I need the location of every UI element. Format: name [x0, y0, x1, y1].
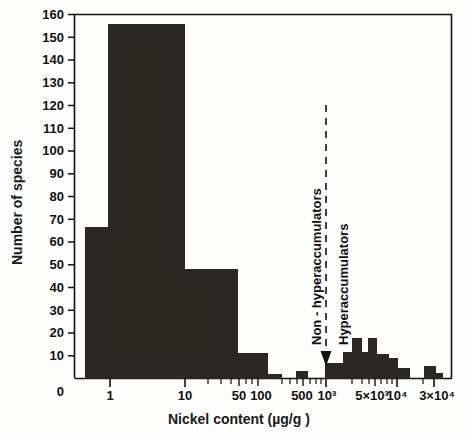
histogram-bar — [398, 368, 410, 379]
histogram-bar — [268, 374, 282, 379]
histogram-bar — [238, 353, 268, 379]
y-tick-label: 110 — [43, 121, 64, 136]
y-tick-label: 50 — [50, 257, 64, 272]
nickel-content-histogram-figure: 160 150 140 130 120 110 100 90 80 70 60 … — [0, 0, 471, 436]
y-tick-label: 30 — [50, 303, 64, 318]
y-tick-label: 120 — [42, 98, 64, 113]
x-tick-label: 1 — [106, 388, 113, 403]
histogram-bar — [362, 352, 368, 379]
x-axis-title: Nickel content (µg/g ) — [168, 411, 310, 427]
x-tick-label: 50 — [232, 388, 246, 403]
y-tick-label: 90 — [50, 166, 64, 181]
y-axis-title: Number of species — [9, 140, 25, 265]
x-tick-label: 3×10⁴ — [419, 388, 455, 403]
histogram-bar — [436, 373, 443, 379]
y-tick-label: 10 — [50, 348, 64, 363]
histogram-bar — [368, 338, 377, 379]
y-tick-label: 140 — [42, 52, 64, 67]
y-tick-label: 130 — [42, 75, 64, 90]
y-axis-ticks — [68, 15, 75, 356]
non-hyperaccumulators-label: Non - hyperaccumulators — [309, 188, 324, 345]
y-tick-label: 150 — [42, 30, 64, 45]
x-axis-ticks — [110, 379, 434, 388]
histogram-bar — [343, 352, 352, 379]
histogram-bar — [424, 366, 436, 379]
histogram-bars — [85, 24, 443, 379]
hyperaccumulators-label: Hyperaccumulators — [336, 224, 351, 345]
x-tick-label: 5×10³ — [355, 388, 389, 403]
histogram-bar — [377, 354, 389, 379]
y-tick-label: 0 — [57, 384, 64, 399]
histogram-bar — [296, 371, 308, 379]
x-tick-label: 10⁴ — [387, 388, 408, 403]
histogram-bar — [185, 269, 238, 379]
histogram-bar — [389, 358, 398, 379]
y-tick-label: 160 — [42, 7, 64, 22]
chart-svg: 160 150 140 130 120 110 100 90 80 70 60 … — [0, 0, 471, 436]
y-tick-label: 100 — [42, 143, 64, 158]
histogram-bar — [325, 363, 343, 379]
histogram-bar — [108, 24, 185, 379]
histogram-bar — [85, 227, 108, 379]
x-tick-label: 100 — [250, 388, 272, 403]
x-tick-label: 10 — [178, 388, 192, 403]
x-tick-label: 10³ — [318, 388, 337, 403]
y-tick-label: 70 — [50, 212, 64, 227]
x-tick-label: 500 — [291, 388, 313, 403]
y-tick-label: 20 — [50, 325, 64, 340]
y-tick-label: 60 — [50, 234, 64, 249]
x-axis-tick-labels: 1 10 50 100 500 10³ 5×10³ 10⁴ 3×10⁴ — [106, 388, 454, 403]
y-tick-label: 80 — [50, 189, 64, 204]
y-axis-tick-labels: 160 150 140 130 120 110 100 90 80 70 60 … — [42, 7, 64, 399]
histogram-bar — [352, 338, 362, 379]
y-tick-label: 40 — [50, 280, 64, 295]
